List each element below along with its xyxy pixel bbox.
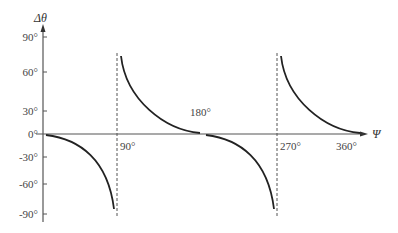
y-tick-label: -30° bbox=[19, 151, 38, 163]
x-axis-arrow-icon bbox=[360, 132, 368, 137]
y-tick-label: -60° bbox=[19, 178, 38, 190]
x-tick-label: 180° bbox=[190, 106, 211, 118]
curve-segment-2 bbox=[121, 56, 200, 133]
curve-segment-1 bbox=[46, 135, 114, 209]
y-axis-arrow-icon bbox=[41, 24, 46, 32]
curve-segment-3 bbox=[206, 135, 274, 209]
delta-theta-vs-psi-chart: Δθ Ψ 90° 60° 30° 0° -30° -60° -90° 90° 1… bbox=[0, 0, 398, 233]
y-tick-label: 0° bbox=[28, 128, 38, 140]
y-tick-label: -90° bbox=[19, 208, 38, 220]
y-tick-label: 30° bbox=[23, 105, 38, 117]
curve-segment-4 bbox=[281, 56, 360, 133]
x-tick-label: 90° bbox=[120, 140, 135, 152]
y-tick-label: 90° bbox=[23, 31, 38, 43]
x-tick-label: 360° bbox=[336, 140, 357, 152]
y-tick-label: 60° bbox=[23, 66, 38, 78]
x-axis-title: Ψ bbox=[372, 127, 382, 141]
curves bbox=[46, 56, 360, 209]
x-tick-label: 270° bbox=[280, 140, 301, 152]
y-axis-title: Δθ bbox=[33, 11, 47, 25]
